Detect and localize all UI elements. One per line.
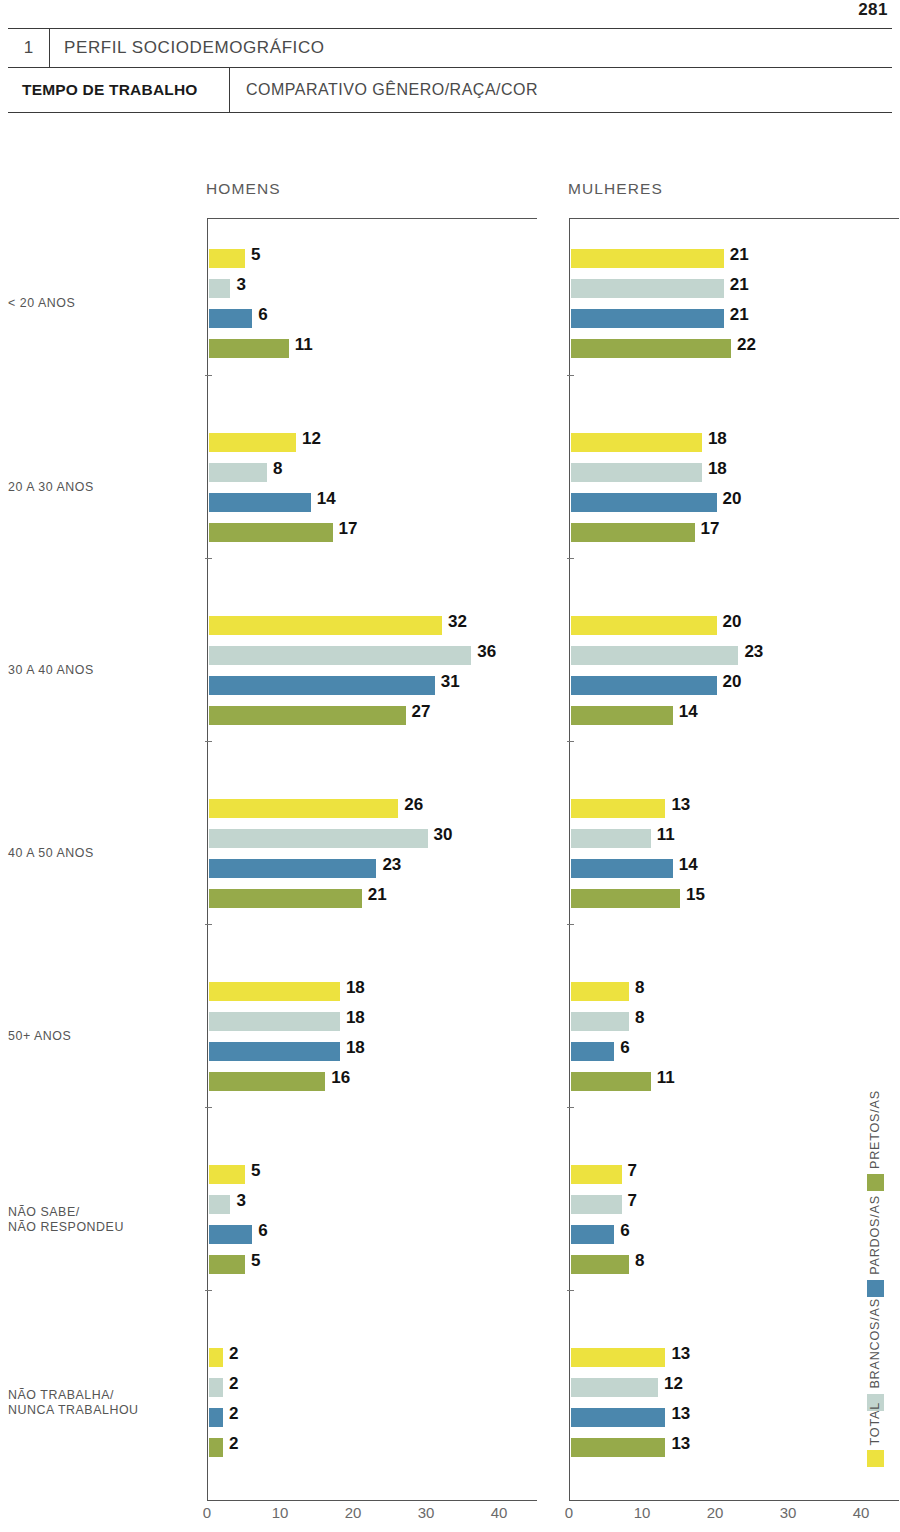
bar-value-label: 22	[737, 335, 756, 354]
bar	[209, 1072, 326, 1091]
bar-value-label: 7	[628, 1161, 637, 1180]
chart-container: HOMENS MULHERES 010203040 010203040 < 20…	[0, 0, 900, 1532]
bar	[209, 1408, 224, 1427]
x-tick-label: 20	[707, 1504, 724, 1521]
bar	[571, 799, 666, 818]
bar-value-label: 7	[628, 1191, 637, 1210]
bar-value-label: 18	[708, 459, 727, 478]
x-tick-label: 30	[780, 1504, 797, 1521]
panel-title-homens: HOMENS	[206, 180, 281, 198]
bar-value-label: 13	[671, 1344, 690, 1363]
legend-swatch	[867, 1174, 884, 1191]
bar	[209, 523, 333, 542]
group-separator-tick	[567, 1290, 574, 1291]
category-label: NÃO TRABALHA/NUNCA TRABALHOU	[8, 1388, 139, 1418]
legend-item: PARDOS/AS	[852, 1195, 898, 1297]
bar-value-label: 23	[744, 642, 763, 661]
bar-value-label: 6	[258, 305, 267, 324]
bar	[571, 1165, 622, 1184]
bar-value-label: 12	[302, 429, 321, 448]
bar	[571, 279, 724, 298]
bar-value-label: 18	[708, 429, 727, 448]
x-tick-label: 40	[491, 1504, 508, 1521]
bar	[571, 1012, 629, 1031]
bar-value-label: 23	[382, 855, 401, 874]
group-separator-tick	[205, 741, 212, 742]
bar-value-label: 3	[236, 1191, 245, 1210]
chart-legend: PRETOS/ASPARDOS/ASBRANCOS/ASTOTAL	[852, 1090, 898, 1490]
bar-value-label: 16	[331, 1068, 350, 1087]
bar-value-label: 6	[620, 1221, 629, 1240]
bar	[571, 646, 739, 665]
bar-value-label: 11	[657, 825, 675, 844]
bar-value-label: 11	[295, 335, 313, 354]
group-separator-tick	[567, 741, 574, 742]
legend-label: PRETOS/AS	[868, 1090, 882, 1169]
legend-swatch	[867, 1450, 884, 1467]
bar-value-label: 20	[723, 672, 742, 691]
group-separator-tick	[205, 1107, 212, 1108]
bar-value-label: 8	[635, 978, 644, 997]
group-separator-tick	[567, 924, 574, 925]
bar	[571, 249, 724, 268]
category-label: < 20 ANOS	[8, 296, 75, 311]
bar	[209, 1012, 340, 1031]
bar	[571, 1042, 615, 1061]
bar-value-label: 17	[701, 519, 720, 538]
bar	[571, 676, 717, 695]
legend-label: TOTAL	[868, 1402, 882, 1445]
category-label: 20 A 30 ANOS	[8, 480, 94, 495]
bar	[209, 889, 362, 908]
group-separator-tick	[205, 1290, 212, 1291]
bar	[571, 1378, 659, 1397]
category-label: 30 A 40 ANOS	[8, 663, 94, 678]
category-label: 50+ ANOS	[8, 1029, 71, 1044]
x-tick-label: 0	[565, 1504, 573, 1521]
bar	[209, 1225, 253, 1244]
bar	[209, 493, 311, 512]
bar-value-label: 26	[404, 795, 423, 814]
bar	[571, 889, 681, 908]
bar	[571, 433, 702, 452]
bar	[209, 1438, 224, 1457]
x-tick-label: 20	[345, 1504, 362, 1521]
group-separator-tick	[567, 1107, 574, 1108]
bar-value-label: 6	[620, 1038, 629, 1057]
bar	[209, 1348, 224, 1367]
bar	[209, 433, 297, 452]
bar	[209, 982, 340, 1001]
bar-value-label: 32	[448, 612, 467, 631]
bar	[571, 1225, 615, 1244]
bar	[571, 339, 732, 358]
bar-value-label: 18	[346, 1008, 365, 1027]
bar-value-label: 31	[441, 672, 460, 691]
legend-label: BRANCOS/AS	[868, 1298, 882, 1389]
bar-value-label: 11	[657, 1068, 675, 1087]
bar-value-label: 20	[723, 612, 742, 631]
bar	[209, 249, 246, 268]
bar-value-label: 2	[229, 1344, 238, 1363]
bar-value-label: 30	[434, 825, 453, 844]
bar-value-label: 2	[229, 1374, 238, 1393]
bar-value-label: 3	[236, 275, 245, 294]
bar	[209, 279, 231, 298]
category-label: 40 A 50 ANOS	[8, 846, 94, 861]
group-separator-tick	[205, 924, 212, 925]
bar	[571, 982, 629, 1001]
bar-value-label: 13	[671, 1434, 690, 1453]
bar-value-label: 15	[686, 885, 705, 904]
bar-value-label: 14	[679, 855, 698, 874]
legend-item: TOTAL	[852, 1402, 898, 1467]
bar-value-label: 36	[477, 642, 496, 661]
bar-value-label: 14	[679, 702, 698, 721]
bar-value-label: 18	[346, 978, 365, 997]
bar-value-label: 21	[730, 275, 749, 294]
x-tick-label: 10	[634, 1504, 651, 1521]
bar-value-label: 21	[368, 885, 387, 904]
bar	[209, 829, 428, 848]
bar	[209, 1255, 246, 1274]
bar	[571, 859, 673, 878]
legend-swatch	[867, 1280, 884, 1297]
panel-title-mulheres: MULHERES	[568, 180, 663, 198]
x-axis-ticks-mulheres: 010203040	[569, 1504, 899, 1530]
